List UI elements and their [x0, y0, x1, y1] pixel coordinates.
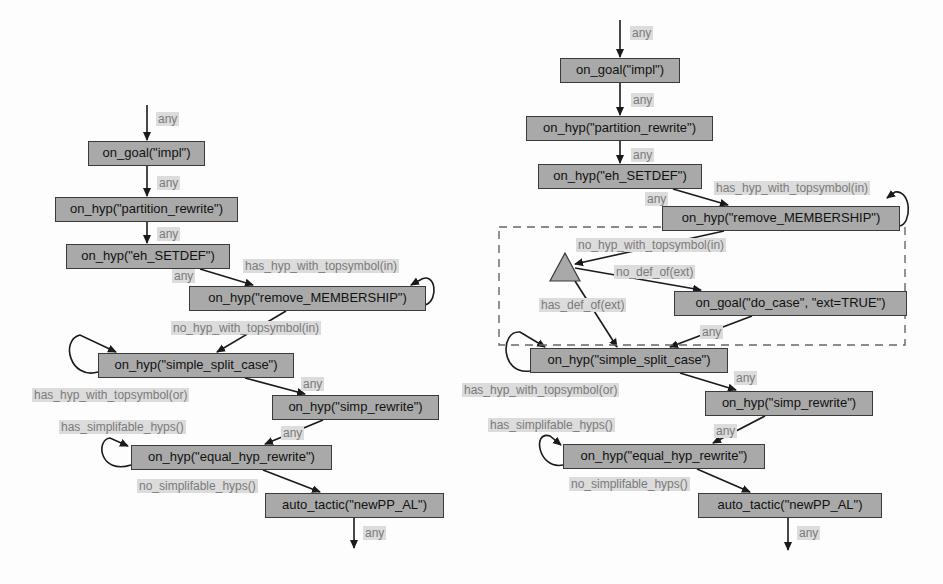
node-left-remove-membership: on_hyp("remove_MEMBERSHIP")	[189, 286, 426, 311]
edge-label: any	[631, 93, 654, 107]
edge-label: any	[645, 192, 668, 206]
edge-label: any	[301, 377, 324, 391]
edge-label: any	[157, 227, 180, 241]
node-left-on-goal-impl: on_goal("impl")	[88, 141, 205, 166]
edge-label: has_hyp_with_topsymbol(or)	[32, 388, 189, 402]
edge-label: no_hyp_with_topsymbol(in)	[576, 238, 726, 252]
right-diagram-edges	[506, 20, 908, 550]
node-right-partition-rewrite: on_hyp("partition_rewrite")	[526, 116, 713, 141]
edge-label: any	[157, 176, 180, 190]
node-right-simple-split-case: on_hyp("simple_split_case")	[530, 348, 728, 373]
edge-label: any	[734, 371, 757, 385]
node-left-eh-setdef: on_hyp("eh_SETDEF")	[66, 244, 230, 269]
node-left-simp-rewrite: on_hyp("simp_rewrite")	[272, 395, 439, 420]
node-right-on-goal-impl: on_goal("impl")	[560, 58, 680, 83]
edge-label: any	[631, 148, 654, 162]
edge-label: no_hyp_with_topsymbol(in)	[171, 321, 321, 335]
edge-label: any	[797, 526, 820, 540]
edge-label: no_simplifable_hyps()	[137, 479, 258, 493]
edge-label: has_simplifable_hyps()	[59, 420, 186, 434]
edge-label: has_def_of(ext)	[539, 298, 626, 312]
node-right-simp-rewrite: on_hyp("simp_rewrite")	[705, 391, 873, 416]
edge-label: any	[700, 325, 723, 339]
node-left-simple-split-case: on_hyp("simple_split_case")	[98, 353, 294, 378]
edge-label: has_hyp_with_topsymbol(in)	[714, 181, 870, 195]
edge-label: any	[630, 26, 653, 40]
edge-label: any	[172, 269, 195, 283]
node-left-equal-hyp-rewrite: on_hyp("equal_hyp_rewrite")	[131, 445, 332, 470]
node-right-do-case: on_goal("do_case", "ext=TRUE")	[674, 291, 907, 316]
node-left-partition-rewrite: on_hyp("partition_rewrite")	[55, 197, 238, 222]
edge-label: any	[156, 112, 179, 126]
edge-label: any	[281, 426, 304, 440]
node-right-eh-setdef: on_hyp("eh_SETDEF")	[538, 164, 702, 189]
tactic-flow-diagram: on_goal("impl") on_hyp("partition_rewrit…	[0, 0, 943, 584]
edge-label: any	[363, 526, 386, 540]
node-right-remove-membership: on_hyp("remove_MEMBERSHIP")	[662, 206, 900, 231]
node-right-auto-tactic: auto_tactic("newPP_AL")	[698, 493, 882, 518]
edge-label: has_hyp_with_topsymbol(or)	[462, 383, 619, 397]
edge-label: has_hyp_with_topsymbol(in)	[243, 259, 399, 273]
edge-label: has_simplifable_hyps()	[488, 418, 615, 432]
edge-label: no_simplifable_hyps()	[569, 477, 690, 491]
node-right-equal-hyp-rewrite: on_hyp("equal_hyp_rewrite")	[563, 444, 765, 469]
node-left-auto-tactic: auto_tactic("newPP_AL")	[265, 493, 444, 518]
decision-triangle	[550, 253, 580, 281]
edge-label: any	[714, 424, 737, 438]
edge-label: no_def_of(ext)	[614, 265, 695, 279]
